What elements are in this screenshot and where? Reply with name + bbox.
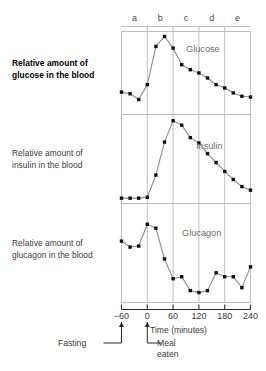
data-point: [171, 119, 174, 122]
fasting-arrowhead: [119, 322, 124, 327]
data-point: [214, 161, 217, 164]
data-point: [223, 275, 226, 278]
series-line: [122, 121, 251, 198]
row-label-line2: glucose in the blood: [12, 70, 120, 82]
data-point: [154, 45, 157, 48]
data-point: [180, 63, 183, 66]
data-point: [180, 123, 183, 126]
data-point: [223, 170, 226, 173]
series-insulin: [120, 119, 252, 200]
data-point: [171, 277, 174, 280]
data-point: [171, 46, 174, 49]
data-point: [240, 286, 243, 289]
row-label-glucagon: Relative amount ofglucagon in the blood: [12, 238, 120, 261]
data-point: [128, 92, 131, 95]
data-point: [197, 291, 200, 294]
data-point: [163, 35, 166, 38]
meal-eaten-label-line2: eaten: [157, 349, 179, 360]
data-point: [180, 275, 183, 278]
data-point: [249, 188, 252, 191]
row-label-line1: Relative amount of: [12, 238, 120, 250]
data-point: [206, 289, 209, 292]
phase-letter-d: d: [205, 13, 219, 23]
meal-eaten-label-line1: Meal: [157, 338, 176, 349]
row-label-line2: insulin in the blood: [12, 160, 120, 172]
data-point: [137, 244, 140, 247]
data-point: [154, 227, 157, 230]
data-point: [206, 76, 209, 79]
phase-letter-e: e: [231, 13, 245, 23]
data-point: [189, 136, 192, 139]
data-point: [146, 196, 149, 199]
data-point: [214, 83, 217, 86]
data-point: [232, 275, 235, 278]
row-label-line2: glucagon in the blood: [12, 250, 120, 262]
data-point: [128, 245, 131, 248]
series-label-insulin: Insulin: [196, 141, 223, 151]
data-point: [206, 152, 209, 155]
panel-frame-2: [122, 204, 251, 303]
data-point: [189, 289, 192, 292]
data-point: [120, 196, 123, 199]
x-axis-title: Time (minutes): [150, 325, 207, 335]
data-point: [214, 271, 217, 274]
data-point: [120, 90, 123, 93]
row-label-line1: Relative amount of: [12, 58, 120, 70]
data-point: [240, 185, 243, 188]
data-point: [240, 95, 243, 98]
data-point: [137, 98, 140, 101]
data-point: [120, 239, 123, 242]
data-point: [163, 257, 166, 260]
row-label-insulin: Relative amount ofinsulin in the blood: [12, 148, 120, 171]
phase-letter-b: b: [153, 13, 167, 23]
data-point: [154, 173, 157, 176]
row-label-glucose: Relative amount ofglucose in the blood: [12, 58, 120, 81]
data-point: [128, 196, 131, 199]
series-label-glucose: Glucose: [186, 44, 220, 54]
data-point: [137, 196, 140, 199]
data-point: [189, 68, 192, 71]
data-point: [249, 265, 252, 268]
data-point: [249, 95, 252, 98]
data-point: [163, 140, 166, 143]
x-tick-label-5: 240: [236, 311, 266, 321]
data-point: [146, 223, 149, 226]
phase-letter-a: a: [127, 13, 141, 23]
data-point: [232, 178, 235, 181]
fasting-label: Fasting: [58, 338, 86, 349]
data-point: [146, 83, 149, 86]
row-label-line1: Relative amount of: [12, 148, 120, 160]
series-label-glucagon: Glucagon: [182, 228, 221, 238]
panel-frame-1: [122, 115, 251, 204]
data-point: [232, 91, 235, 94]
phase-letter-c: c: [179, 13, 193, 23]
blood-hormone-figure: Relative amount ofglucose in the bloodRe…: [0, 0, 265, 371]
data-point: [197, 71, 200, 74]
data-point: [223, 86, 226, 89]
